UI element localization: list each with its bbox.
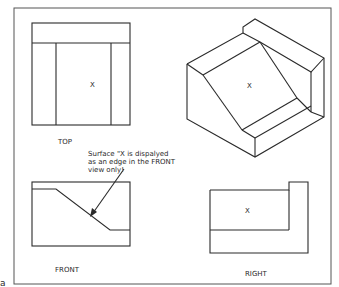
right-surface-x: X	[245, 207, 250, 215]
corner-mark: a	[0, 278, 6, 287]
note-line-3: view only!	[88, 166, 124, 174]
note-line-1: Surface "X is dispalyed	[88, 150, 169, 158]
annotation-note: Surface "X is dispalyed as an edge in th…	[88, 150, 176, 217]
isometric-view: X	[187, 19, 324, 157]
right-view-label: RIGHT	[245, 270, 268, 278]
top-view-label: TOP	[57, 138, 72, 146]
front-view: FRONT	[32, 182, 130, 274]
leader-arrow-line	[93, 169, 124, 213]
iso-surface-x: X	[247, 82, 252, 90]
front-view-label: FRONT	[55, 266, 80, 274]
top-surface-x: X	[90, 81, 95, 89]
right-view: X RIGHT	[210, 182, 308, 278]
note-line-2: as an edge in the FRONT	[88, 158, 176, 166]
drawing-frame	[14, 8, 331, 284]
top-view: X TOP	[32, 23, 130, 146]
orthographic-diagram: X TOP X FRONT Surface "X is dispalyed as…	[0, 0, 339, 287]
